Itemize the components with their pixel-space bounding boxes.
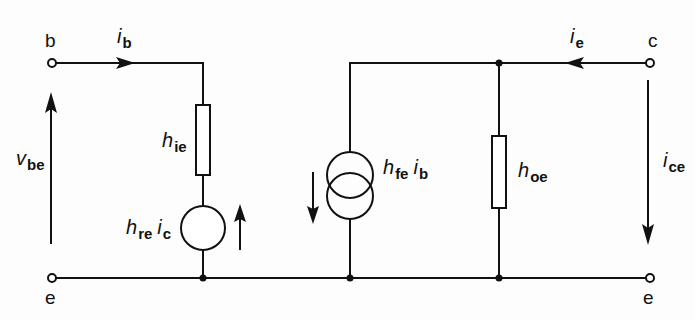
ice-label: ice [663, 150, 685, 170]
junction-dot-icon [347, 275, 354, 282]
hoe-label: hoe [518, 160, 548, 180]
ie-label: ie [570, 26, 584, 46]
terminal-e-left-label: e [45, 288, 56, 307]
junction-dot-icon [200, 275, 207, 282]
circuit-diagram: b e c e ib ie vbe hie hreic hfeib hoe ic… [0, 0, 695, 320]
hre-ic-label: hreic [126, 217, 171, 237]
terminal-b-icon [48, 59, 56, 67]
hfe-current-source-upper [327, 152, 373, 198]
base-wire [56, 63, 203, 105]
terminal-c-icon [646, 59, 654, 67]
ib-label: ib [117, 26, 132, 46]
circuit-wiring [0, 0, 695, 320]
junction-dot-icon [496, 275, 503, 282]
terminal-b-label: b [45, 31, 56, 50]
hfe-current-source-lower [327, 173, 373, 219]
terminal-e-left-icon [48, 274, 56, 282]
junction-dot-icon [496, 60, 503, 67]
hie-resistor [196, 105, 210, 175]
terminal-c-label: c [648, 31, 658, 50]
hfe-ib-label: hfeib [383, 157, 428, 177]
terminal-e-right-icon [646, 274, 654, 282]
hoe-resistor [492, 136, 506, 208]
terminal-e-right-label: e [643, 288, 654, 307]
hie-label: hie [162, 130, 187, 150]
vbe-label: vbe [16, 148, 45, 168]
hre-voltage-source [181, 206, 225, 250]
